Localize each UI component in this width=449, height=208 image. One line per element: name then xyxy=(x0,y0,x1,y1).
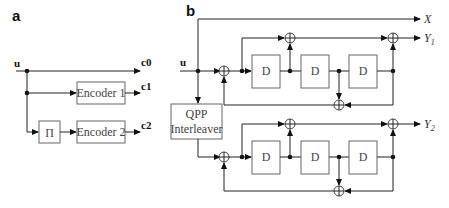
delay-label: D xyxy=(311,150,320,164)
lower-rsc-encoder: D D D xyxy=(219,119,420,196)
panel-b-label: b xyxy=(186,2,195,19)
delay-label: D xyxy=(359,64,368,78)
output-y2-label: Y2 xyxy=(424,117,435,133)
input-u-label: u xyxy=(14,57,20,69)
delay-label: D xyxy=(262,64,271,78)
upper-rsc-encoder: D D D xyxy=(219,33,420,110)
panel-a: a u Π Encoder 1 Encoder 2 c0 c1 c2 xyxy=(12,7,152,143)
panel-a-label: a xyxy=(12,7,21,24)
c2-label: c2 xyxy=(141,119,152,131)
delay-label: D xyxy=(359,150,368,164)
delay-label: D xyxy=(262,150,271,164)
c1-label: c1 xyxy=(141,80,151,92)
encoder-1-label: Encoder 1 xyxy=(77,86,126,100)
turbo-encoder-diagram: a u Π Encoder 1 Encoder 2 c0 c1 c2 b u X xyxy=(0,0,449,208)
qpp-label: QPP xyxy=(185,107,207,121)
interleaver-label-b: Interleaver xyxy=(171,122,223,136)
interleaver-label: Π xyxy=(45,126,54,140)
output-x-label: X xyxy=(423,12,432,26)
qpp-output-line xyxy=(198,139,220,157)
output-y1-label: Y1 xyxy=(424,31,435,47)
c0-label: c0 xyxy=(141,56,152,68)
delay-label: D xyxy=(311,64,320,78)
encoder-2-label: Encoder 2 xyxy=(77,125,126,139)
panel-b: b u X QPP Interleaver D D xyxy=(171,2,435,196)
input-u-label-b: u xyxy=(180,56,186,68)
